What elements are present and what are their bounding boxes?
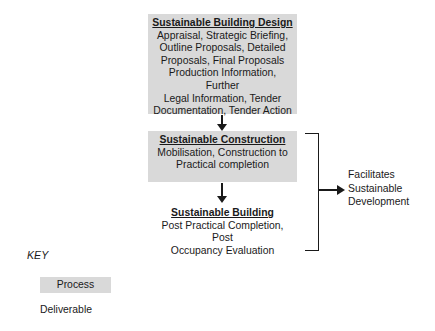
right-arrow-icon-to-outcome: [319, 185, 347, 195]
arrow-head: [337, 185, 345, 195]
outcome-label: Facilitates Sustainable Development: [348, 168, 433, 209]
arrow-head: [217, 196, 227, 203]
key-title: KEY: [27, 249, 48, 261]
stage-title-sustainable-building: Sustainable Building: [152, 207, 293, 220]
stage-title-sustainable-construction: Sustainable Construction: [152, 134, 293, 147]
stage-body-sustainable-building: Post Practical Completion, Post Occupanc…: [152, 220, 293, 258]
down-arrow-icon-design-to-construction: [215, 115, 229, 131]
stage-box-sustainable-building: Sustainable Building Post Practical Comp…: [148, 204, 297, 250]
down-arrow-icon-construction-to-building: [215, 183, 229, 204]
stage-body-sustainable-building-design: Appraisal, Strategic Briefing, Outline P…: [152, 30, 293, 118]
key-label-deliverable: Deliverable: [40, 303, 130, 317]
stage-box-sustainable-construction: Sustainable Construction Mobilisation, C…: [148, 131, 297, 182]
arrow-shaft: [319, 189, 338, 191]
key-swatch-process: Process: [40, 277, 111, 293]
diagram-canvas: Sustainable Building Design Appraisal, S…: [0, 0, 435, 331]
key-label-process: Process: [40, 277, 111, 293]
grouping-bracket: [305, 133, 319, 251]
stage-body-sustainable-construction: Mobilisation, Construction to Practical …: [152, 147, 293, 172]
arrow-shaft: [221, 183, 223, 196]
stage-title-sustainable-building-design: Sustainable Building Design: [152, 17, 293, 30]
arrow-shaft: [221, 115, 223, 124]
arrow-head: [217, 124, 227, 131]
stage-box-sustainable-building-design: Sustainable Building Design Appraisal, S…: [148, 14, 297, 114]
